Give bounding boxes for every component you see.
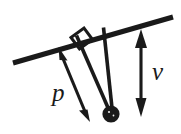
pendulum-bob-highlight-2 xyxy=(113,115,115,117)
arrow-v-head-lower xyxy=(136,98,147,117)
diagram-svg: p v xyxy=(0,0,181,134)
label-v: v xyxy=(152,58,164,85)
label-p: p xyxy=(50,79,65,106)
physics-diagram-canvas: p v xyxy=(0,0,181,134)
arrow-p-head-lower xyxy=(79,110,90,123)
arrow-v-head-upper xyxy=(135,29,147,48)
pendulum-bob xyxy=(102,105,119,122)
pendulum-bob-highlight xyxy=(108,111,110,113)
arrow-p-shaft xyxy=(62,55,87,114)
